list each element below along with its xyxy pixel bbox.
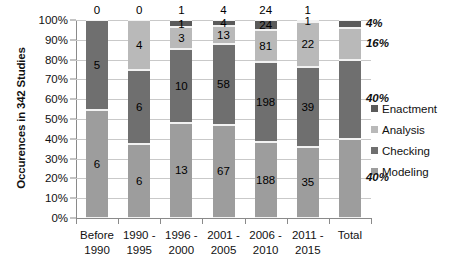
total-percent-label-analysis: 16% bbox=[366, 37, 389, 49]
legend-label: Modeling bbox=[382, 166, 429, 178]
segment-modeling[interactable] bbox=[170, 123, 192, 218]
total-percent-label-modeling: 40% bbox=[366, 171, 389, 183]
segment-analysis[interactable] bbox=[255, 30, 277, 63]
y-axis-tick bbox=[70, 119, 76, 120]
y-axis-label: 80% bbox=[45, 54, 68, 66]
y-axis-label: 0% bbox=[51, 212, 68, 224]
y-axis-tick bbox=[70, 218, 76, 219]
bar-1990-1995[interactable]: 6640 bbox=[128, 20, 150, 218]
y-axis-label: 70% bbox=[45, 73, 68, 85]
bar-top-value-label: 0 bbox=[77, 4, 117, 16]
y-axis-label: 10% bbox=[45, 192, 68, 204]
bar-1996-2000[interactable]: 1310311 bbox=[170, 20, 192, 218]
segment-analysis[interactable] bbox=[128, 20, 150, 70]
segment-checking[interactable] bbox=[339, 60, 361, 139]
segment-checking[interactable] bbox=[213, 44, 235, 125]
segment-modeling[interactable] bbox=[339, 139, 361, 218]
segment-modeling[interactable] bbox=[255, 142, 277, 218]
bar-2006-2010[interactable]: 188198812424 bbox=[255, 20, 277, 218]
x-axis-tick bbox=[245, 218, 246, 224]
legend-label: Analysis bbox=[382, 124, 425, 136]
x-axis-label: Total bbox=[318, 228, 382, 243]
segment-checking[interactable] bbox=[170, 49, 192, 122]
segment-modeling[interactable] bbox=[86, 110, 108, 218]
segment-checking[interactable] bbox=[86, 20, 108, 110]
y-axis-tick bbox=[70, 20, 76, 21]
bar-top-value-label: 4 bbox=[204, 4, 244, 16]
legend-label: Checking bbox=[382, 145, 430, 157]
x-axis-tick bbox=[371, 218, 372, 224]
y-axis-label: 50% bbox=[45, 113, 68, 125]
legend-swatch-icon bbox=[371, 105, 378, 112]
y-axis-tick bbox=[70, 59, 76, 60]
x-axis-tick bbox=[287, 218, 288, 224]
x-axis-tick bbox=[160, 218, 161, 224]
bar-top-value-label: 1 bbox=[161, 4, 201, 16]
x-axis-label-line: Total bbox=[318, 228, 382, 243]
x-axis-tick bbox=[118, 218, 119, 224]
segment-modeling[interactable] bbox=[213, 125, 235, 218]
segment-checking[interactable] bbox=[297, 67, 319, 147]
x-axis-tick-labels: Before19901990 -19951996 -20002001 -2005… bbox=[60, 228, 400, 274]
bar-2001-2005[interactable]: 67581344 bbox=[213, 20, 235, 218]
x-axis-ticks bbox=[76, 218, 371, 224]
segment-analysis[interactable] bbox=[339, 28, 361, 60]
segment-checking[interactable] bbox=[255, 62, 277, 142]
y-axis-tick bbox=[70, 99, 76, 100]
legend: EnactmentAnalysisCheckingModeling bbox=[371, 98, 460, 182]
legend-swatch-icon bbox=[371, 126, 378, 133]
segment-enactment[interactable] bbox=[213, 20, 235, 26]
segment-analysis[interactable] bbox=[297, 22, 319, 67]
x-axis-tick bbox=[76, 218, 77, 224]
y-axis-tick bbox=[70, 178, 76, 179]
y-axis-label: 30% bbox=[45, 153, 68, 165]
segment-analysis[interactable] bbox=[170, 27, 192, 49]
segment-enactment[interactable] bbox=[339, 20, 361, 28]
segment-checking[interactable] bbox=[128, 70, 150, 144]
segment-modeling[interactable] bbox=[297, 147, 319, 218]
bar-total[interactable] bbox=[339, 20, 361, 218]
segment-enactment[interactable] bbox=[170, 20, 192, 27]
y-axis-label: 60% bbox=[45, 93, 68, 105]
total-percent-label-checking: 40% bbox=[366, 92, 389, 104]
bar-top-value-label: 24 bbox=[246, 4, 286, 16]
segment-enactment[interactable] bbox=[297, 20, 319, 22]
legend-item-checking[interactable]: Checking bbox=[371, 140, 460, 161]
legend-swatch-icon bbox=[371, 147, 378, 154]
segment-modeling[interactable] bbox=[128, 144, 150, 218]
stacked-bar-chart: Occurences in 342 Studies 0%10%20%30%40%… bbox=[0, 0, 460, 280]
bar-top-value-label: 0 bbox=[119, 4, 159, 16]
x-axis-tick bbox=[202, 218, 203, 224]
segment-analysis[interactable] bbox=[213, 26, 235, 44]
x-axis-label-line: 2015 bbox=[276, 243, 340, 258]
y-axis-label: 40% bbox=[45, 133, 68, 145]
y-axis-label: 100% bbox=[39, 14, 68, 26]
y-axis-tick bbox=[70, 39, 76, 40]
y-axis-label: 20% bbox=[45, 172, 68, 184]
y-axis-tick bbox=[70, 158, 76, 159]
total-percent-label-enactment: 4% bbox=[366, 17, 383, 29]
y-axis-tick bbox=[70, 198, 76, 199]
segment-enactment[interactable] bbox=[255, 20, 277, 30]
y-axis-tick bbox=[70, 79, 76, 80]
x-axis-tick bbox=[329, 218, 330, 224]
plot-area: 6506640131031167581344188198812424353922… bbox=[76, 20, 371, 218]
y-axis-tick-labels: 0%10%20%30%40%50%60%70%80%90%100% bbox=[30, 20, 74, 218]
bar-before-1990[interactable]: 650 bbox=[86, 20, 108, 218]
legend-label: Enactment bbox=[382, 103, 437, 115]
y-axis-label: 90% bbox=[45, 34, 68, 46]
legend-item-analysis[interactable]: Analysis bbox=[371, 119, 460, 140]
bar-top-value-label: 1 bbox=[288, 4, 328, 16]
y-axis-tick bbox=[70, 138, 76, 139]
y-axis-title: Occurences in 342 Studies bbox=[15, 23, 27, 213]
bar-2011-2015[interactable]: 35392211 bbox=[297, 20, 319, 218]
